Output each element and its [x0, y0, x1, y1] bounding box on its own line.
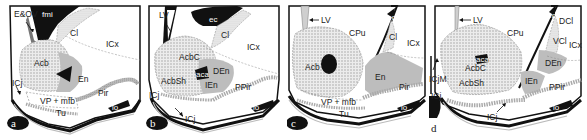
- label-acbc: AcbC: [465, 63, 486, 73]
- label-icj-bottom: ICj: [487, 112, 498, 122]
- label-icj: ICj: [12, 78, 23, 88]
- label-cl: Cl: [389, 32, 397, 42]
- label-lo: lo: [401, 103, 408, 112]
- panel-d: LV CPu ec DCl VCl ICx aca AcbC ICjM AcbS…: [429, 0, 587, 140]
- label-ppir: PPir: [235, 82, 251, 92]
- label-acb: Acb: [305, 62, 320, 72]
- label-dci: DCl: [559, 16, 573, 26]
- label-aca: aca: [196, 70, 209, 79]
- label-pir: Pir: [399, 82, 410, 92]
- label-den: DEn: [213, 66, 230, 76]
- label-vp-mfb: VP + mfb: [40, 96, 75, 106]
- label-tu: Tu: [339, 109, 349, 119]
- label-ec: ec: [387, 13, 395, 22]
- label-icjm: ICjM: [429, 74, 446, 84]
- label-vci: VCl: [553, 36, 567, 46]
- panel-label-b: b: [150, 117, 156, 129]
- label-icj-left: ICj: [431, 91, 442, 101]
- label-acb: Acb: [34, 58, 49, 68]
- panel-label-c: c: [291, 117, 296, 129]
- label-acbc: AcbC: [179, 52, 200, 62]
- label-icj-left: ICj: [149, 90, 160, 100]
- label-ec: ec: [209, 15, 217, 24]
- label-e-ov: E&OV: [14, 9, 38, 19]
- label-ien: IEn: [525, 76, 538, 86]
- label-icx: ICx: [247, 42, 261, 52]
- label-cpu: CPu: [507, 28, 524, 38]
- label-ppir: PPir: [549, 82, 565, 92]
- label-acbsh: AcbSh: [459, 78, 484, 88]
- label-lo: lo: [553, 103, 560, 112]
- label-cl: Cl: [70, 28, 78, 38]
- label-icx: ICx: [569, 40, 583, 50]
- label-cl: Cl: [221, 30, 229, 40]
- label-lv: LV: [473, 15, 483, 25]
- panel-label-a: a: [11, 117, 16, 129]
- label-den: DEn: [545, 58, 562, 68]
- label-lo: lo: [253, 103, 260, 112]
- label-pir: Pir: [98, 88, 109, 98]
- panel-c: LV CPu ec Cl ICx Acb En Pir lo VP + mfb …: [287, 0, 429, 140]
- panel-label-d: d: [431, 122, 437, 134]
- label-lv: LV: [159, 10, 169, 20]
- label-vp-mfb: VP + mfb: [321, 97, 356, 107]
- label-cpu: CPu: [349, 28, 366, 38]
- label-icj-bottom: ICj: [185, 114, 196, 124]
- label-en: En: [78, 74, 89, 84]
- label-fmi: fmi: [42, 10, 53, 19]
- label-icx: ICx: [407, 38, 421, 48]
- panel-b: LV ec Cl ICx AcbC aca DEn AcbSh IEn PPir…: [143, 0, 289, 140]
- label-tu: Tu: [56, 108, 66, 118]
- label-ec: ec: [547, 11, 555, 20]
- panel-a: E&OV fmi Cl ICx Acb En ICj Pir lo VP + m…: [0, 0, 146, 140]
- label-icx: ICx: [106, 39, 120, 49]
- label-acbsh: AcbSh: [161, 76, 186, 86]
- label-en: En: [375, 72, 386, 82]
- label-lo: lo: [112, 103, 119, 112]
- label-ien: IEn: [205, 80, 218, 90]
- label-lv: LV: [321, 15, 331, 25]
